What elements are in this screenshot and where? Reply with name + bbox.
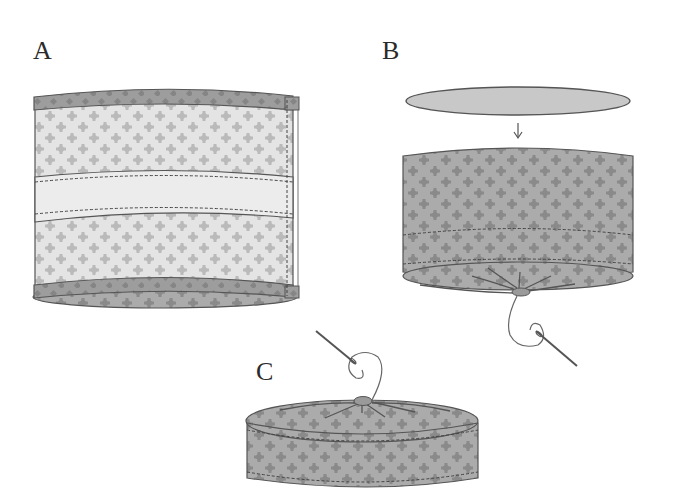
step-b-cylinder (403, 148, 633, 296)
diagram-canvas (0, 0, 673, 503)
step-b-oval-top (406, 87, 630, 115)
step-c-cylinder (246, 397, 478, 488)
needle-and-thread-b (509, 296, 577, 366)
down-arrow-icon (514, 123, 522, 138)
step-a-cylinder (33, 89, 299, 308)
needle-and-thread-c (316, 331, 382, 400)
